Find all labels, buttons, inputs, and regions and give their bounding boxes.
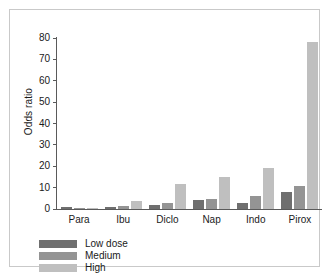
y-axis-tick: 80 [39, 33, 57, 43]
bar-high[interactable] [219, 177, 230, 209]
chart-legend: Low doseMediumHigh [39, 238, 128, 274]
y-axis-tick-label: 70 [39, 54, 53, 64]
bar-low[interactable] [149, 205, 160, 209]
x-axis-tick-label: Ibu [116, 214, 130, 225]
legend-item[interactable]: Low dose [39, 238, 128, 249]
x-axis-tick-label: Nap [202, 214, 220, 225]
bar-medium[interactable] [206, 199, 217, 209]
y-axis-tick-label: 30 [39, 140, 53, 150]
bar-low[interactable] [193, 200, 204, 209]
y-axis-tick: 20 [39, 161, 57, 171]
legend-label: Medium [85, 251, 121, 261]
bar-medium[interactable] [74, 208, 85, 209]
legend-swatch-medium [39, 252, 77, 260]
bar-group: Pirox [278, 38, 322, 209]
y-axis-tick-label: 20 [39, 161, 53, 171]
legend-swatch-high [39, 264, 77, 272]
legend-label: High [85, 263, 106, 273]
y-axis-tick-label: 0 [44, 204, 53, 214]
x-axis-line [56, 209, 322, 210]
legend-item[interactable]: High [39, 262, 128, 273]
y-axis-tick: 30 [39, 140, 57, 150]
bar-low[interactable] [105, 207, 116, 209]
bar-high[interactable] [175, 184, 186, 209]
bar-group: Para [57, 38, 101, 209]
y-axis-tick-label: 50 [39, 97, 53, 107]
x-axis-tick-label: Pirox [289, 214, 312, 225]
bar-low[interactable] [237, 203, 248, 209]
y-axis-tick-label: 40 [39, 119, 53, 129]
bar-high[interactable] [87, 208, 98, 209]
y-axis-tick: 0 [44, 204, 57, 214]
x-axis-tick-label: Indo [246, 214, 265, 225]
x-axis-tick-label: Diclo [156, 214, 178, 225]
legend-swatch-low [39, 240, 77, 248]
legend-item[interactable]: Medium [39, 250, 128, 261]
bar-medium[interactable] [162, 203, 173, 209]
y-axis-tick: 70 [39, 54, 57, 64]
bar-high[interactable] [263, 168, 274, 209]
bar-high[interactable] [307, 42, 318, 209]
bar-medium[interactable] [250, 196, 261, 209]
y-axis-title: Odds ratio [23, 88, 37, 135]
bar-group: Ibu [101, 38, 145, 209]
legend-label: Low dose [85, 239, 128, 249]
bar-medium[interactable] [118, 206, 129, 209]
y-axis-tick: 40 [39, 119, 57, 129]
bar-medium[interactable] [294, 186, 305, 210]
bar-high[interactable] [131, 201, 142, 209]
figure-frame: Odds ratio 01020304050607080 ParaIbuDicl… [9, 9, 320, 267]
y-axis-tick: 60 [39, 76, 57, 86]
bar-group: Nap [190, 38, 234, 209]
bar-group: Indo [234, 38, 278, 209]
plot-area: 01020304050607080 ParaIbuDicloNapIndoPir… [57, 38, 322, 209]
y-axis-tick-label: 80 [39, 33, 53, 43]
x-axis-tick-label: Para [69, 214, 90, 225]
bar-low[interactable] [281, 192, 292, 209]
bar-group: Diclo [145, 38, 189, 209]
y-axis-tick-label: 60 [39, 76, 53, 86]
y-axis-tick-label: 10 [39, 183, 53, 193]
chart-page: Odds ratio 01020304050607080 ParaIbuDicl… [0, 0, 331, 278]
y-axis-tick: 50 [39, 97, 57, 107]
y-axis-tick: 10 [39, 183, 57, 193]
bar-low[interactable] [61, 207, 72, 209]
